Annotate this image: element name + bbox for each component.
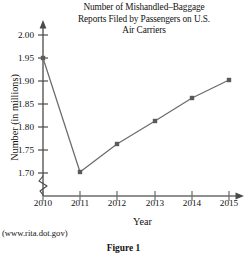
data-point <box>153 119 157 123</box>
data-point-markers <box>41 56 231 174</box>
data-point <box>41 56 45 60</box>
data-series-line <box>43 58 229 172</box>
source-note: (www.rita.dot.gov) <box>2 228 68 238</box>
x-tick-label: 2014 <box>172 198 212 208</box>
x-axis-label: Year <box>0 216 247 227</box>
figure-caption: Figure 1 <box>0 243 247 253</box>
y-axis <box>40 20 47 196</box>
x-tick-label: 2013 <box>135 198 175 208</box>
x-tick-label: 2011 <box>60 198 100 208</box>
data-point <box>115 142 119 146</box>
data-point <box>227 78 231 82</box>
y-axis-label: Number (in millions) <box>9 53 20 183</box>
x-tick-label: 2015 <box>209 198 247 208</box>
y-tick-label: 2.00 <box>8 30 34 40</box>
x-tick-label: 2012 <box>97 198 137 208</box>
data-point <box>78 170 82 174</box>
x-tick-label: 2010 <box>23 198 63 208</box>
figure-container: Number of Mishandled–Baggage Reports Fil… <box>0 0 247 254</box>
data-point <box>190 96 194 100</box>
